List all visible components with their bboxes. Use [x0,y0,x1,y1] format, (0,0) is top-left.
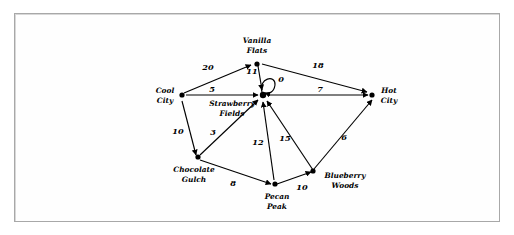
edge-weight-chocolate-gulch-strawberry-fields: 3 [210,127,216,137]
edge-weight-strawberry-fields-hot-city: 7 [317,84,323,94]
edge-weight-vanilla-flats-hot-city: 18 [312,60,324,70]
node-label-cool-city-line2: City [157,96,174,105]
edge-weight-chocolate-gulch-pecan-peak: 8 [230,178,236,188]
node-dot-strawberry-fields[interactable] [260,92,266,98]
edge-weight-cool-city-strawberry-fields: 5 [209,84,215,94]
node-label-cool-city-line1: Cool [156,86,175,95]
node-label-pecan-peak-line1: Pecan [264,192,290,201]
edge-weight-blueberry-woods-strawberry-fields: 15 [279,133,291,143]
node-label-blueberry-woods-line2: Woods [332,181,360,190]
edge-weight-strawberry-fields-self-loop: 0 [278,74,284,84]
edge-weight-blueberry-woods-hot-city: 6 [341,132,347,142]
node-label-strawberry-fields-line1: Strawberry [209,99,255,108]
weighted-graph: Vanilla Flats Cool City Strawberry Field… [0,0,514,235]
node-label-strawberry-fields-line2: Fields [219,109,246,118]
node-dot-cool-city[interactable] [179,92,184,97]
node-dot-blueberry-woods[interactable] [310,168,315,173]
edge-cool-city-to-vanilla-flats [184,65,251,93]
node-dot-hot-city[interactable] [369,92,374,97]
node-label-hot-city-line2: City [381,96,398,105]
edge-cool-city-to-chocolate-gulch [182,101,196,155]
diagram-page: Vanilla Flats Cool City Strawberry Field… [0,0,514,235]
node-label-vanilla-flats-line2: Flats [246,46,268,55]
edge-weight-vanilla-flats-strawberry-fields: 11 [246,66,257,76]
edge-pecan-peak-to-strawberry-fields [263,102,274,180]
node-label-pecan-peak-line2: Peak [266,202,287,211]
edge-weight-cool-city-vanilla-flats: 20 [201,62,214,72]
node-dot-chocolate-gulch[interactable] [195,154,200,159]
node-label-blueberry-woods-line1: Blueberry [323,171,366,180]
node-label-vanilla-flats-line1: Vanilla [243,36,272,45]
edge-strawberry-fields-self-loop [261,79,275,94]
node-label-hot-city-line1: Hot [380,86,397,95]
edge-weight-pecan-peak-strawberry-fields: 12 [252,137,264,147]
node-label-chocolate-gulch-line1: Chocolate [173,165,215,174]
node-dot-pecan-peak[interactable] [272,181,277,186]
edge-weight-cool-city-chocolate-gulch: 10 [172,126,184,136]
node-label-chocolate-gulch-line2: Gulch [182,175,206,184]
edge-weight-pecan-peak-blueberry-woods: 10 [296,182,308,192]
